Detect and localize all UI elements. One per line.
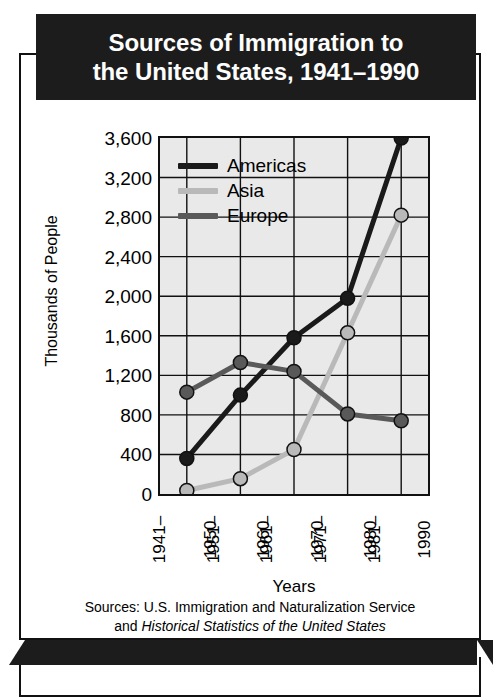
y-tick-label: 400 (82, 445, 152, 464)
sources-line-2-prefix: and (114, 618, 141, 634)
legend-label: Americas (227, 156, 306, 175)
legend-label: Europe (227, 206, 288, 225)
y-axis-tick-labels: 3,6003,2002,8002,4002,0001,6001,20080040… (80, 107, 152, 497)
legend-label: Asia (227, 181, 264, 200)
data-point-asia (180, 484, 194, 494)
data-point-asia (341, 326, 355, 340)
title-line-1: Sources of Immigration to (109, 28, 404, 57)
sources-line-2: and Historical Statistics of the United … (30, 617, 470, 636)
data-point-americas (180, 451, 194, 465)
legend-swatch-icon (178, 213, 218, 219)
data-point-europe (180, 385, 194, 399)
data-point-europe (341, 407, 355, 421)
legend-item-europe[interactable]: Europe (178, 203, 306, 228)
data-point-americas (341, 291, 355, 305)
sources-line-1: Sources: U.S. Immigration and Naturaliza… (85, 599, 416, 615)
data-point-europe (287, 364, 301, 378)
legend-item-americas[interactable]: Americas (178, 153, 306, 178)
legend-swatch-icon (178, 188, 218, 194)
x-axis-tick-labels: 1941–19501951–19601961–19701971–19801981… (158, 500, 430, 580)
x-tick-label-line: 1990 (415, 521, 434, 559)
data-point-asia (287, 443, 301, 457)
data-point-americas (233, 388, 247, 402)
chart-legend: AmericasAsiaEurope (178, 153, 306, 228)
chart-area: Thousands of People 3,6003,2002,8002,400… (0, 107, 501, 577)
y-tick-label: 2,000 (82, 287, 152, 306)
y-tick-label: 0 (82, 485, 152, 504)
x-tick-label-line: 1951– (204, 516, 223, 563)
y-tick-label: 3,600 (82, 129, 152, 148)
data-point-asia (233, 472, 247, 486)
x-tick-label-line: 1941– (150, 516, 169, 563)
sources-publication-title: Historical Statistics of the United Stat… (141, 618, 385, 634)
bottom-banner (25, 640, 477, 665)
legend-item-asia[interactable]: Asia (178, 178, 306, 203)
x-tick-label-line: 1981– (365, 516, 384, 563)
y-tick-label: 2,400 (82, 248, 152, 267)
x-tick-label-line: 1971– (311, 516, 330, 563)
y-tick-label: 1,600 (82, 327, 152, 346)
title-banner: Sources of Immigration to the United Sta… (36, 14, 476, 100)
y-axis-title: Thousands of People (43, 191, 61, 391)
data-point-europe (233, 355, 247, 369)
y-tick-label: 1,200 (82, 366, 152, 385)
legend-swatch-icon (178, 163, 218, 169)
sources-note: Sources: U.S. Immigration and Naturaliza… (30, 598, 470, 636)
x-axis-title: Years (158, 577, 430, 597)
data-point-americas (394, 138, 408, 145)
data-point-americas (287, 331, 301, 345)
x-tick-label: 1981–1990 (371, 500, 431, 578)
data-point-asia (394, 208, 408, 222)
title-line-2: the United States, 1941–1990 (93, 57, 420, 86)
y-tick-label: 2,800 (82, 208, 152, 227)
data-point-europe (394, 414, 408, 428)
x-tick-label-line: 1961– (258, 516, 277, 563)
y-tick-label: 3,200 (82, 169, 152, 188)
y-tick-label: 800 (82, 406, 152, 425)
